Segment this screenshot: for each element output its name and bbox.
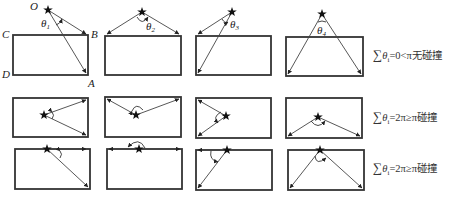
rectangle: [196, 98, 271, 138]
ray-down-right: [320, 150, 362, 188]
ray-right: [322, 14, 361, 74]
condition-row-3: ∑θi=2π≥π碰撞: [373, 160, 437, 177]
row-2-panel-4: [286, 98, 362, 138]
condition-row-1: ∑θi=0<π无碰撞: [373, 47, 442, 64]
ray-up-left: [107, 99, 136, 115]
ray-down-right: [44, 115, 86, 135]
ray-down: [198, 12, 232, 73]
label-d: D: [1, 68, 10, 80]
angle-arc: [128, 142, 145, 148]
label-c: C: [2, 28, 10, 40]
star-icon: [317, 9, 327, 18]
star-icon: [134, 144, 144, 153]
row-3-panel-3: [196, 145, 272, 190]
angle-arc: [52, 112, 54, 119]
angle-arc: [132, 106, 143, 111]
row-2-panel-2: [105, 97, 181, 137]
row-1-panel-2: θ2: [105, 7, 181, 75]
rectangle: [107, 149, 182, 189]
rectangle: [13, 35, 88, 75]
ray-down-left: [198, 116, 226, 136]
ray-down-right: [47, 149, 88, 187]
row-3-panel-4: [288, 145, 364, 190]
label-o: O: [30, 0, 38, 12]
angle-arc: [60, 151, 62, 158]
ray-left: [107, 12, 142, 34]
ray-down-left: [290, 150, 320, 188]
row-2-panel-3: [196, 98, 271, 138]
condition-row-2: ∑θi=2π≥π碰撞: [373, 109, 437, 126]
ray-oa: [48, 10, 86, 73]
row-3-panel-1: [15, 144, 90, 189]
theta-3-label: θ3: [230, 18, 239, 32]
ray-up-right: [44, 100, 86, 115]
star-icon: [131, 110, 141, 119]
ray-left: [198, 12, 232, 34]
label-b: B: [91, 28, 98, 40]
row-1-panel-4: θ4: [286, 9, 363, 76]
label-a: A: [87, 77, 95, 89]
ray-down-left: [288, 117, 318, 136]
rectangle: [105, 97, 181, 137]
theta-4-label: θ4: [317, 24, 326, 38]
theta-1-label: θ1: [41, 17, 50, 31]
rectangle: [13, 98, 88, 137]
angle-arc: [211, 151, 218, 162]
row-2-panel-1: [13, 98, 88, 137]
ray-down-left: [198, 150, 227, 188]
theta-2-label: θ2: [146, 20, 155, 34]
angle-arc: [318, 21, 326, 22]
ray-ob: [48, 10, 86, 34]
ray-left: [288, 14, 322, 74]
row-1-panel-1: O B C D A θ1: [1, 0, 98, 89]
rectangle: [15, 149, 90, 189]
row-1-panel-3: θ3: [196, 7, 271, 75]
rectangle: [196, 150, 272, 190]
star-icon: [222, 145, 232, 154]
ray-up-right: [136, 99, 179, 115]
row-3-panel-2: [107, 142, 182, 189]
rectangle: [105, 36, 181, 75]
ray-up-left: [198, 100, 226, 116]
angle-arc: [315, 156, 326, 162]
angle-arc: [311, 121, 325, 126]
star-icon: [39, 110, 49, 119]
ray-down-right: [318, 117, 360, 136]
star-icon: [137, 7, 147, 16]
